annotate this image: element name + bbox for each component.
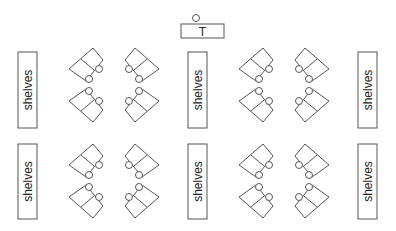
- desk-pair-outline: [295, 89, 329, 122]
- desk-pair-outline: [295, 48, 329, 81]
- desk-pair: [125, 88, 159, 123]
- desk-pair-outline: [125, 185, 159, 218]
- desk-pair: [125, 184, 159, 219]
- shelves-label: shelves: [21, 70, 35, 111]
- desk-pair-outline: [125, 48, 159, 81]
- student-seat: [96, 162, 103, 169]
- desk-pair: [239, 48, 273, 83]
- desk-pair-outline: [69, 89, 103, 122]
- student-seat: [296, 194, 303, 201]
- student-seat: [126, 66, 133, 73]
- desk-pair-outline: [125, 89, 159, 122]
- desk-pair: [295, 88, 329, 123]
- student-seat: [136, 184, 143, 191]
- student-seat: [86, 184, 93, 191]
- student-seat: [86, 76, 93, 83]
- shelves-unit: shelves: [358, 144, 377, 219]
- student-seat: [296, 98, 303, 105]
- desk-pair: [295, 184, 329, 219]
- student-seat: [256, 88, 263, 95]
- desk-pair-outline: [69, 144, 103, 177]
- shelves-label: shelves: [191, 70, 205, 111]
- desk-cluster: [69, 144, 159, 218]
- student-seat: [136, 88, 143, 95]
- desk-pair-outline: [239, 89, 273, 122]
- student-seat: [266, 162, 273, 169]
- desk-pair: [125, 144, 159, 179]
- shelves-label: shelves: [21, 161, 35, 202]
- shelves-unit: shelves: [18, 144, 37, 219]
- shelves-unit: shelves: [18, 52, 37, 128]
- desk-pair-outline: [69, 185, 103, 218]
- student-seat: [256, 172, 263, 179]
- student-seat: [86, 88, 93, 95]
- shelves-unit: shelves: [358, 52, 377, 128]
- desk-pair: [69, 88, 103, 123]
- student-seat: [266, 98, 273, 105]
- student-seat: [306, 184, 313, 191]
- student-seat: [296, 66, 303, 73]
- desk-pair-outline: [125, 144, 159, 177]
- desk-pair-outline: [239, 48, 273, 81]
- classroom-floor-plan: T shelvesshelvesshelvesshelvesshelvesshe…: [0, 0, 396, 231]
- student-seat: [96, 98, 103, 105]
- shelves-unit: shelves: [188, 144, 207, 219]
- shelves-label: shelves: [361, 70, 375, 111]
- desk-pair: [69, 144, 103, 179]
- desk-pair-outline: [295, 185, 329, 218]
- desk-pair: [125, 48, 159, 83]
- student-seat: [126, 162, 133, 169]
- teacher-seat: [193, 15, 200, 22]
- desk-pair: [69, 184, 103, 219]
- shelves-label: shelves: [191, 161, 205, 202]
- student-seat: [136, 172, 143, 179]
- desk-pair: [295, 48, 329, 83]
- student-seat: [126, 194, 133, 201]
- desk-cluster: [239, 48, 329, 122]
- desk-pair-outline: [69, 48, 103, 81]
- student-seat: [86, 172, 93, 179]
- student-seat: [296, 162, 303, 169]
- desk-pair: [239, 184, 273, 219]
- desk-pair-outline: [295, 144, 329, 177]
- student-seat: [306, 76, 313, 83]
- student-seat: [96, 194, 103, 201]
- desk-pair: [295, 144, 329, 179]
- desk-pair: [239, 88, 273, 123]
- desk-pair: [239, 144, 273, 179]
- student-seat: [256, 76, 263, 83]
- student-seat: [96, 66, 103, 73]
- shelves-label: shelves: [361, 161, 375, 202]
- student-seat: [136, 76, 143, 83]
- student-seat: [266, 66, 273, 73]
- desk-cluster: [69, 48, 159, 122]
- student-seat: [306, 172, 313, 179]
- student-seat: [256, 184, 263, 191]
- desk-pair-outline: [239, 185, 273, 218]
- desk-pair: [69, 48, 103, 83]
- student-seat: [126, 98, 133, 105]
- shelves-unit: shelves: [188, 52, 207, 128]
- student-seat: [266, 194, 273, 201]
- teacher-label: T: [199, 25, 207, 39]
- teacher-desk: T: [181, 15, 224, 39]
- desk-pair-outline: [239, 144, 273, 177]
- desk-cluster: [239, 144, 329, 218]
- student-seat: [306, 88, 313, 95]
